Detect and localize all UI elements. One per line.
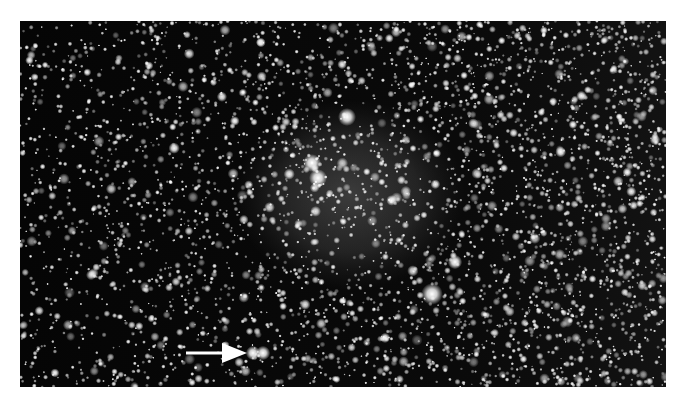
- starfield-canvas: [20, 21, 666, 387]
- starfield-photo: [20, 21, 666, 387]
- image-subject: starfield with faint diffuse nebula: [0, 0, 1, 1]
